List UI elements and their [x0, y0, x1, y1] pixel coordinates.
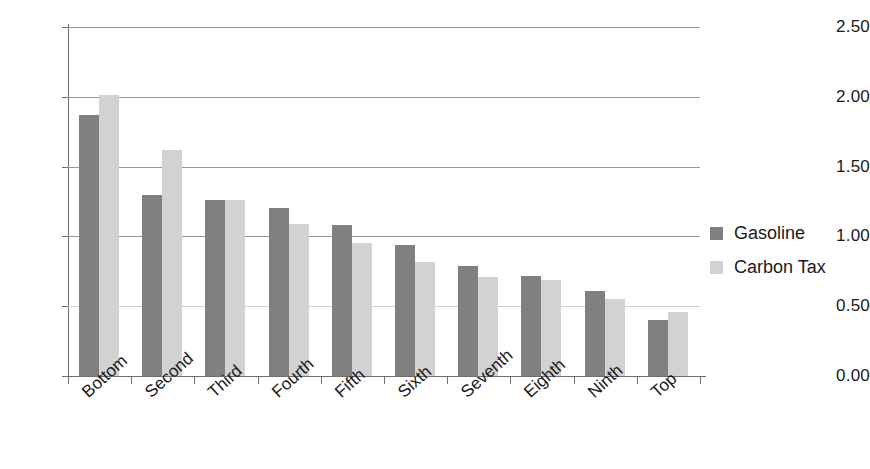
bar[interactable]	[395, 245, 415, 376]
x-axis-tick-mark	[68, 376, 69, 384]
x-axis-tick-mark	[574, 376, 575, 384]
legend-label: Gasoline	[734, 224, 805, 242]
bar[interactable]	[142, 195, 162, 376]
bar-group	[510, 27, 573, 376]
bar[interactable]	[352, 243, 372, 376]
legend-label: Carbon Tax	[734, 258, 826, 276]
bar[interactable]	[458, 266, 478, 376]
bar[interactable]	[289, 224, 309, 376]
legend-swatch-icon	[710, 261, 723, 274]
bar[interactable]	[415, 262, 435, 376]
bar[interactable]	[585, 291, 605, 376]
y-axis-tick-label: 2.00	[814, 88, 870, 105]
x-axis-tick-mark	[637, 376, 638, 384]
plot-area	[68, 27, 700, 376]
bar-group	[131, 27, 194, 376]
x-axis-tick-mark	[321, 376, 322, 384]
bar-group	[574, 27, 637, 376]
bar[interactable]	[332, 225, 352, 376]
bar-group	[637, 27, 700, 376]
bar[interactable]	[225, 200, 245, 376]
x-axis-tick-mark	[258, 376, 259, 384]
bar-group	[321, 27, 384, 376]
bar-chart: 0.000.501.001.502.002.50 BottomSecondThi…	[0, 0, 870, 469]
legend-item[interactable]: Carbon Tax	[710, 250, 826, 284]
x-axis-tick-mark	[510, 376, 511, 384]
bar-group	[384, 27, 447, 376]
bar[interactable]	[205, 200, 225, 376]
bar-group	[194, 27, 257, 376]
x-axis-tick-mark	[131, 376, 132, 384]
bar[interactable]	[162, 150, 182, 376]
bar-group	[68, 27, 131, 376]
bar-group	[258, 27, 321, 376]
y-axis-tick-label: 1.50	[814, 158, 870, 175]
legend-swatch-icon	[710, 227, 723, 240]
bar[interactable]	[269, 208, 289, 376]
bar[interactable]	[521, 276, 541, 377]
y-axis-tick-label: 0.50	[814, 297, 870, 314]
bar[interactable]	[99, 95, 119, 376]
bar[interactable]	[79, 115, 99, 376]
y-axis-tick-label: 2.50	[814, 18, 870, 35]
bar[interactable]	[668, 312, 688, 376]
chart-legend: GasolineCarbon Tax	[710, 216, 826, 284]
y-axis-tick-label: 0.00	[814, 367, 870, 384]
x-axis-tick-mark	[447, 376, 448, 384]
x-axis-tick-mark	[700, 376, 701, 384]
bar[interactable]	[648, 320, 668, 376]
bar-group	[447, 27, 510, 376]
x-axis-tick-mark	[194, 376, 195, 384]
legend-item[interactable]: Gasoline	[710, 216, 826, 250]
x-axis-tick-mark	[384, 376, 385, 384]
